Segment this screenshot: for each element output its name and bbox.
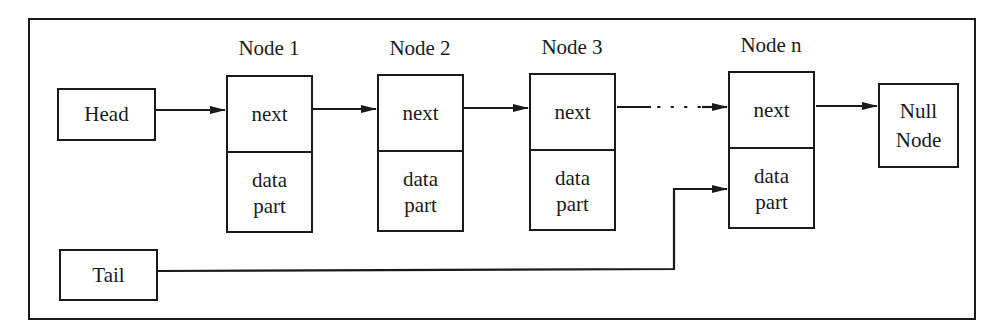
node-1-data-field: data part bbox=[228, 153, 311, 233]
node-n-next-field: next bbox=[730, 73, 813, 149]
node-3-title: Node 3 bbox=[512, 35, 632, 60]
node-1-data-label: data part bbox=[252, 167, 287, 219]
node-3: next data part bbox=[529, 73, 616, 231]
node-2-title: Node 2 bbox=[360, 36, 480, 61]
node-2-data-field: data part bbox=[379, 152, 462, 232]
node-3-data-label: data part bbox=[555, 165, 590, 217]
node-n: next data part bbox=[728, 71, 815, 229]
node-2-data-label: data part bbox=[403, 166, 438, 218]
node-n-title: Node n bbox=[711, 33, 831, 58]
tail-pointer-box: Tail bbox=[59, 249, 158, 301]
node-3-next-field: next bbox=[531, 75, 614, 151]
null-node-label: Null Node bbox=[896, 97, 942, 155]
node-1-next-field: next bbox=[228, 77, 311, 153]
node-2-next-field: next bbox=[379, 76, 462, 152]
node-n-data-field: data part bbox=[730, 149, 813, 229]
node-2: next data part bbox=[377, 74, 464, 232]
node-n-data-label: data part bbox=[754, 163, 789, 215]
tail-label: Tail bbox=[92, 263, 124, 288]
node-3-data-field: data part bbox=[531, 151, 614, 231]
node-1-title: Node 1 bbox=[209, 36, 329, 61]
null-node-box: Null Node bbox=[878, 83, 959, 168]
node-1: next data part bbox=[226, 75, 313, 233]
head-pointer-box: Head bbox=[57, 88, 156, 141]
head-label: Head bbox=[84, 102, 128, 127]
